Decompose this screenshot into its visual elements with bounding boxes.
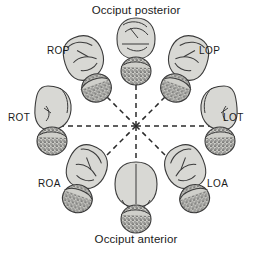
position-label-lot: LOT <box>223 112 244 123</box>
position-label-lop: LOP <box>199 45 220 56</box>
position-label-loa: LOA <box>207 178 228 189</box>
position-label-rop: ROP <box>47 45 70 56</box>
spoke-northwest <box>78 68 136 126</box>
spoke-southeast <box>136 126 194 184</box>
spoke-northeast <box>136 68 194 126</box>
spoke-southwest <box>78 126 136 184</box>
caption-occiput-posterior: Occiput posterior <box>0 4 272 16</box>
radial-spokes <box>0 0 272 253</box>
fetal-position-diagram: Occiput posterior Occiput anterior ROP R… <box>0 0 272 253</box>
caption-occiput-anterior: Occiput anterior <box>0 233 272 245</box>
position-label-rot: ROT <box>8 112 30 123</box>
position-label-roa: ROA <box>38 178 61 189</box>
